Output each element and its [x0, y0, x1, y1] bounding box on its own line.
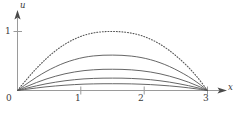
curve-t0 [18, 31, 208, 90]
curve-t2 [18, 69, 208, 90]
curve-t3 [18, 78, 208, 90]
chart-figure: u x 1 0 1 2 3 [0, 0, 238, 117]
x-tick-label-3: 3 [203, 94, 209, 103]
x-axis-label: x [228, 83, 233, 92]
curve-t1 [18, 55, 208, 90]
curve-family [18, 31, 208, 90]
curve-t4 [18, 84, 208, 91]
x-tick-label-2: 2 [138, 94, 144, 103]
x-tick-label-1: 1 [75, 94, 81, 103]
y-axis-label: u [20, 1, 25, 10]
y-tick-label-1: 1 [5, 27, 11, 36]
x-tick-label-0: 0 [6, 94, 12, 103]
